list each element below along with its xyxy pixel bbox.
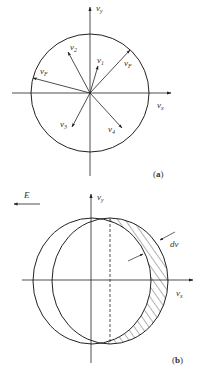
v2-label: v2 <box>70 43 77 53</box>
vx-label-b: vx <box>176 289 183 299</box>
v1-label: v1 <box>97 56 104 66</box>
vector-v2 <box>68 52 90 93</box>
fermi-sphere-figure: vy vx v1 v2 v3 v4 vF vF (a) E vy vx dv (… <box>0 0 200 378</box>
panel-a-label: (a) <box>153 170 164 179</box>
vF-right-label: vF <box>124 59 132 69</box>
vx-label: vx <box>157 101 164 111</box>
field-E-label: E <box>24 191 30 200</box>
dv-label: dv <box>170 240 179 249</box>
panel-a <box>12 7 171 176</box>
vector-v3 <box>72 93 90 127</box>
vector-v4 <box>90 93 122 128</box>
panel-b <box>0 194 200 363</box>
v4-label: v4 <box>108 125 115 135</box>
panel-b-label: (b) <box>172 356 183 365</box>
vy-label-b: vy <box>97 193 104 203</box>
vy-label: vy <box>96 4 103 14</box>
vector-vF-left <box>33 78 90 93</box>
v3-label: v3 <box>60 120 67 130</box>
vF-left-label: vF <box>40 67 48 77</box>
